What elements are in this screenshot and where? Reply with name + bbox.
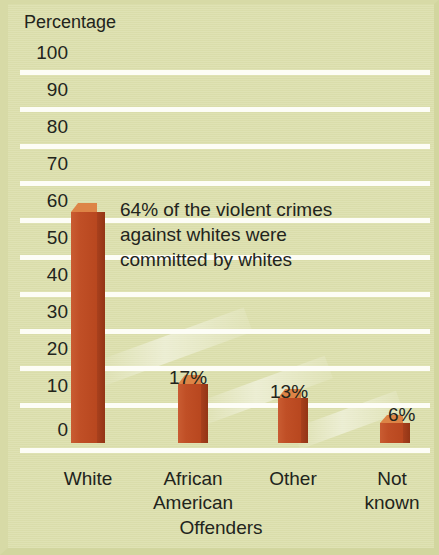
x-category-label-not-known-line2: known: [344, 491, 439, 515]
y-tick-label-50: 50: [22, 227, 68, 249]
bar-african-american-side-face: [201, 384, 208, 443]
x-category-label-african-american: African American: [138, 467, 248, 515]
x-category-label-not-known-line1: Not: [344, 467, 439, 491]
bar-other-side-face: [301, 398, 308, 443]
bar-value-label-not-known: 6%: [388, 404, 415, 426]
bar-value-label-african-american: 17%: [169, 367, 207, 389]
annotation-line-3: committed by whites: [120, 247, 332, 272]
y-tick-label-10: 10: [22, 375, 68, 397]
bar-other-front-face: [278, 398, 301, 443]
chart-annotation: 64% of the violent crimes against whites…: [120, 197, 332, 272]
annotation-line-2: against whites were: [120, 222, 332, 247]
x-category-label-other: Other: [245, 467, 341, 491]
y-tick-label-100: 100: [22, 42, 68, 64]
x-category-label-african-american-line2: American: [138, 491, 248, 515]
x-axis-title: Offenders: [8, 517, 434, 539]
bar-not-known-front-face: [380, 423, 403, 443]
gridline-90: [20, 107, 430, 112]
gridline-100: [20, 70, 430, 75]
bar-value-label-other: 13%: [270, 381, 308, 403]
y-axis-title: Percentage: [24, 12, 116, 33]
gridline-0-baseline: [20, 448, 430, 453]
x-category-label-white: White: [38, 467, 138, 491]
background-watermark-band: [193, 356, 333, 426]
x-category-label-white-line1: White: [38, 467, 138, 491]
x-category-label-african-american-line1: African: [138, 467, 248, 491]
y-tick-label-40: 40: [22, 264, 68, 286]
bar-white[interactable]: [71, 203, 105, 443]
y-tick-label-80: 80: [22, 116, 68, 138]
y-tick-label-30: 30: [22, 301, 68, 323]
x-category-label-not-known: Not known: [344, 467, 439, 515]
bar-not-known-side-face: [403, 423, 410, 443]
y-tick-label-90: 90: [22, 79, 68, 101]
chart-container: Percentage 100 90 80 70 60 50 40 30 20 1…: [0, 0, 439, 555]
y-tick-label-20: 20: [22, 338, 68, 360]
y-tick-label-0: 0: [22, 419, 68, 441]
bar-white-side-face: [97, 212, 105, 443]
bar-white-front-face: [71, 212, 97, 443]
annotation-line-1: 64% of the violent crimes: [120, 197, 332, 222]
bar-white-top-face: [71, 203, 97, 212]
bar-african-american-front-face: [178, 384, 201, 443]
gridline-80: [20, 144, 430, 149]
x-category-label-other-line1: Other: [245, 467, 341, 491]
y-tick-label-60: 60: [22, 190, 68, 212]
gridline-70: [20, 181, 430, 186]
y-tick-label-70: 70: [22, 153, 68, 175]
